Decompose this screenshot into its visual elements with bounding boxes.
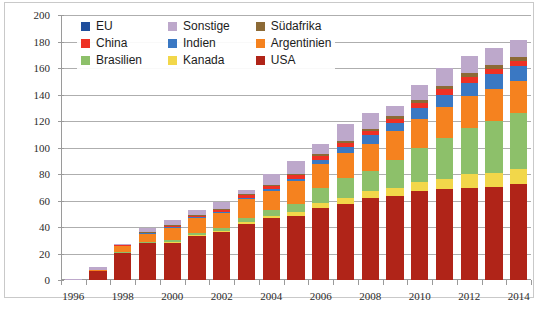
legend-item-china[interactable]: China — [81, 36, 142, 50]
x-tick-mark — [185, 280, 186, 285]
x-axis-label: 2014 — [508, 290, 530, 302]
bar-segment-sonstige — [65, 279, 82, 280]
legend-label: Indien — [183, 36, 216, 50]
x-tick-mark — [407, 280, 408, 285]
bar-segment-indien — [164, 227, 181, 228]
bar-segment-kanada — [362, 191, 379, 198]
bar-2009[interactable] — [386, 15, 403, 280]
x-tick-mark — [61, 280, 62, 285]
x-tick-mark — [209, 280, 210, 285]
legend-label: China — [96, 36, 127, 50]
bar-segment-argentinien — [238, 199, 255, 218]
y-axis-label: 180 — [34, 36, 51, 48]
y-axis-label: 20 — [39, 248, 50, 260]
x-tick-mark — [284, 280, 285, 285]
bar-segment-indien — [287, 179, 304, 182]
bar-2011[interactable] — [436, 15, 453, 280]
bar-segment-kanada — [164, 242, 181, 243]
bar-segment-kanada — [238, 222, 255, 224]
bar-segment-sonstige — [362, 113, 379, 129]
bar-segment-argentinien — [510, 81, 527, 113]
bar-segment-südafrika — [213, 209, 230, 210]
bar-segment-brasilien — [263, 210, 280, 215]
bar-segment-südafrika — [139, 232, 156, 233]
legend-item-argentinien[interactable]: Argentinien — [256, 36, 332, 50]
bar-segment-indien — [436, 95, 453, 108]
legend-item-indien[interactable]: Indien — [168, 36, 230, 50]
bar-segment-usa — [89, 270, 106, 280]
bar-2007[interactable] — [337, 15, 354, 280]
x-tick-mark — [135, 280, 136, 285]
y-tick-mark — [58, 42, 64, 43]
y-axis-label: 60 — [39, 195, 50, 207]
legend-item-kanada[interactable]: Kanada — [168, 53, 230, 67]
bar-segment-usa — [188, 236, 205, 280]
bar-segment-südafrika — [238, 194, 255, 195]
bar-segment-sonstige — [139, 228, 156, 231]
bar-segment-argentinien — [114, 245, 131, 252]
bar-segment-usa — [386, 196, 403, 280]
legend-label: Südafrika — [271, 19, 322, 33]
legend-item-brasilien[interactable]: Brasilien — [81, 53, 142, 67]
bar-segment-brasilien — [164, 240, 181, 241]
bar-segment-südafrika — [263, 185, 280, 186]
bar-segment-kanada — [312, 203, 329, 208]
bar-2010[interactable] — [411, 15, 428, 280]
bar-segment-indien — [312, 160, 329, 165]
chart-frame: 020406080100120140160180200 199619982000… — [4, 2, 534, 298]
x-tick-mark — [86, 280, 87, 285]
bar-segment-sonstige — [89, 267, 106, 270]
bar-segment-sonstige — [510, 40, 527, 57]
x-tick-mark — [506, 280, 507, 285]
bar-segment-usa — [337, 204, 354, 280]
bar-segment-südafrika — [312, 154, 329, 156]
x-axis-label: 2002 — [211, 290, 233, 302]
bar-segment-china — [337, 143, 354, 147]
x-axis-label: 2004 — [260, 290, 282, 302]
bar-segment-sonstige — [485, 48, 502, 65]
y-tick-mark — [58, 15, 64, 16]
bar-segment-kanada — [337, 198, 354, 204]
bar-2014[interactable] — [510, 15, 527, 280]
bar-segment-argentinien — [485, 89, 502, 121]
bar-segment-südafrika — [337, 141, 354, 143]
legend-swatch-icon — [81, 39, 90, 48]
bar-segment-brasilien — [188, 233, 205, 235]
bar-segment-usa — [461, 188, 478, 280]
x-tick-mark — [482, 280, 483, 285]
legend-item-südafrika[interactable]: Südafrika — [256, 19, 332, 33]
bar-segment-china — [461, 77, 478, 82]
bar-segment-sonstige — [411, 85, 428, 100]
bar-segment-argentinien — [312, 164, 329, 188]
legend-item-usa[interactable]: USA — [256, 53, 332, 67]
bar-2013[interactable] — [485, 15, 502, 280]
bar-segment-indien — [362, 135, 379, 144]
y-tick-mark — [58, 254, 64, 255]
bar-segment-argentinien — [386, 131, 403, 159]
legend-item-eu[interactable]: EU — [81, 19, 142, 33]
y-axis-label: 120 — [34, 115, 51, 127]
bar-segment-indien — [213, 212, 230, 213]
legend-label: Sonstige — [183, 19, 230, 33]
legend-item-sonstige[interactable]: Sonstige — [168, 19, 230, 33]
bar-2008[interactable] — [362, 15, 379, 280]
x-tick-mark — [432, 280, 433, 285]
x-tick-mark — [333, 280, 334, 285]
bar-segment-argentinien — [287, 181, 304, 204]
bar-segment-sonstige — [213, 202, 230, 209]
x-tick-mark — [457, 280, 458, 285]
bar-segment-usa — [238, 224, 255, 280]
bar-segment-argentinien — [337, 153, 354, 179]
bar-segment-china — [213, 210, 230, 212]
bar-segment-brasilien — [213, 228, 230, 231]
bar-2012[interactable] — [461, 15, 478, 280]
x-axis-label: 2000 — [161, 290, 183, 302]
bar-segment-argentinien — [263, 191, 280, 211]
bar-segment-brasilien — [436, 138, 453, 178]
y-axis-label: 40 — [39, 221, 50, 233]
bar-segment-sonstige — [263, 174, 280, 185]
bar-segment-indien — [263, 189, 280, 191]
bar-segment-brasilien — [337, 178, 354, 197]
y-axis-label: 140 — [34, 89, 51, 101]
bar-segment-sonstige — [188, 210, 205, 216]
